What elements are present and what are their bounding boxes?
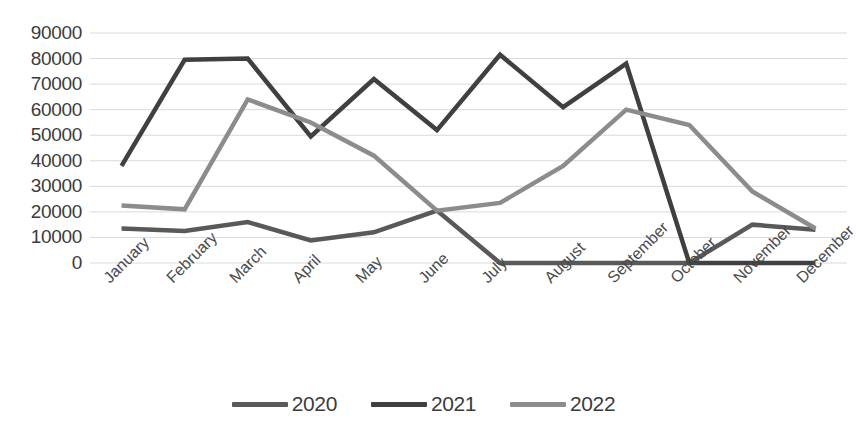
y-axis: 9000080000700006000050000400003000020000… [0,0,82,433]
y-axis-tick-label: 70000 [31,73,82,95]
y-axis-tick-label: 90000 [31,22,82,44]
plot-area: JanuaryFebruaryMarchAprilMayJuneJulyAugu… [90,0,847,433]
series-lines [90,0,847,433]
y-axis-tick-label: 40000 [31,150,82,172]
legend-item-2022[interactable]: 2022 [510,392,615,416]
legend-swatch-2021 [371,402,427,407]
y-axis-tick-label: 10000 [31,226,82,248]
chart-legend: 202020212022 [0,392,847,416]
legend-swatch-2022 [510,402,566,407]
legend-item-2021[interactable]: 2021 [371,392,476,416]
y-axis-tick-label: 30000 [31,175,82,197]
y-axis-tick-label: 50000 [31,124,82,146]
series-line-2021 [122,55,816,263]
y-axis-tick-label: 20000 [31,201,82,223]
legend-label: 2020 [292,392,337,416]
series-line-2022 [122,99,816,228]
y-axis-tick-label: 60000 [31,99,82,121]
legend-swatch-2020 [232,402,288,407]
y-axis-tick-label: 0 [72,252,82,274]
legend-label: 2022 [570,392,615,416]
legend-item-2020[interactable]: 2020 [232,392,337,416]
y-axis-tick-label: 80000 [31,48,82,70]
legend-label: 2021 [431,392,476,416]
